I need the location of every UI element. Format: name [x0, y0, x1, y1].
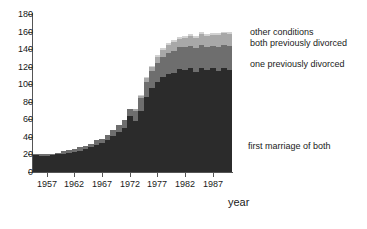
bar-column	[227, 14, 233, 172]
x-tick-mark	[74, 173, 75, 177]
x-axis-line	[32, 172, 233, 173]
y-tick-label: 60	[7, 115, 33, 124]
y-tick-label-wrap: 120	[0, 63, 33, 72]
legend-label-one-previously-divorced: one previously divorced	[250, 59, 345, 70]
y-tick-label-wrap: 0	[0, 168, 33, 177]
y-tick-label-wrap: 100	[0, 80, 33, 89]
y-tick-label: 140	[7, 45, 33, 54]
x-tick-mark	[130, 173, 131, 177]
y-tick-label-wrap: 60	[0, 115, 33, 124]
y-tick-label: 160	[7, 28, 33, 37]
x-tick-mark	[213, 173, 214, 177]
y-tick-label-wrap: 160	[0, 28, 33, 37]
x-tick-label: 1987	[193, 179, 233, 189]
bar-segment	[227, 70, 233, 172]
stacked-bars	[33, 14, 232, 172]
legend-label-other-conditions: other conditions	[250, 27, 314, 38]
y-tick-label-wrap: 40	[0, 133, 33, 142]
y-tick-label: 20	[7, 150, 33, 159]
y-tick-label-wrap: 20	[0, 150, 33, 159]
chart-figure: 020406080100120140160180 195719621967197…	[0, 0, 367, 229]
legend-label-both-previously-divorced: both previously divorced	[250, 38, 347, 49]
y-tick-label: 120	[7, 63, 33, 72]
y-tick-label: 0	[7, 168, 33, 177]
x-tick-mark	[47, 173, 48, 177]
x-tick-mark	[185, 173, 186, 177]
y-tick-label: 100	[7, 80, 33, 89]
x-tick-mark	[157, 173, 158, 177]
y-tick-label-wrap: 140	[0, 45, 33, 54]
bar-segment	[227, 34, 233, 45]
legend-label-first-marriage-of-both: first marriage of both	[248, 141, 331, 152]
y-tick-label: 40	[7, 133, 33, 142]
y-tick-label-wrap: 80	[0, 98, 33, 107]
plot-area	[33, 14, 232, 172]
y-tick-label-wrap: 180	[0, 10, 33, 19]
x-tick-mark	[102, 173, 103, 177]
y-tick-label: 180	[7, 10, 33, 19]
bar-segment	[227, 46, 233, 71]
x-axis-label: year	[228, 196, 249, 208]
y-tick-label: 80	[7, 98, 33, 107]
